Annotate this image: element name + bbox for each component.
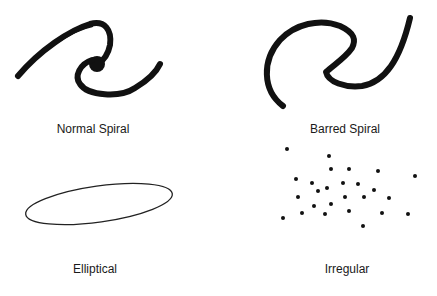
irregular-figure [281, 147, 417, 228]
irregular-label: Irregular [325, 262, 370, 276]
galaxy-diagram [0, 0, 437, 296]
elliptical-figure [23, 176, 175, 232]
normal-spiral-label: Normal Spiral [57, 122, 130, 136]
barred-spiral-figure [267, 18, 410, 106]
normal-spiral-figure [18, 23, 160, 94]
barred-spiral-label: Barred Spiral [310, 122, 380, 136]
elliptical-label: Elliptical [73, 262, 117, 276]
